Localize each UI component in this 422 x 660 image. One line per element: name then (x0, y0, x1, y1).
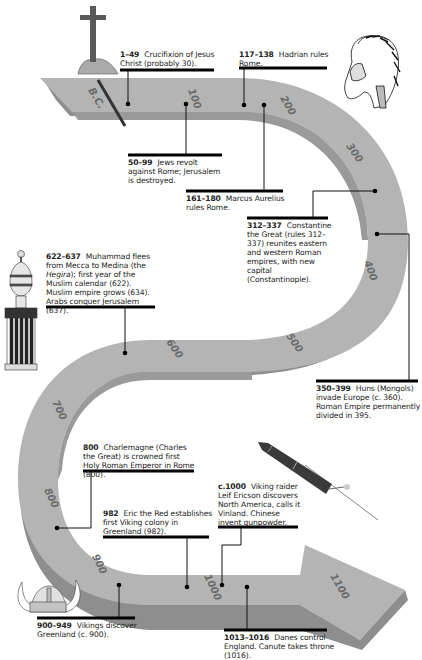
event-years: 161–180 (186, 194, 221, 203)
event-text-italic: Hegira (46, 270, 71, 279)
event-years: 350–399 (316, 384, 351, 393)
event-years: 1013–1016 (224, 633, 269, 642)
ribbon-top-upper (40, 78, 408, 372)
minaret-icon (5, 251, 37, 371)
event-years: c.1000 (218, 482, 246, 491)
event-350-399: 350–399Huns (Mongols) invade Europe (c. … (316, 384, 422, 420)
event-text: Charlemagne (Charles the Great) is crown… (83, 443, 194, 479)
event-312-337: 312–337Constantine the Great (rules 312–… (247, 221, 335, 284)
timeline-diagram: B.C. 100 200 300 400 500 600 700 800 900… (0, 0, 422, 660)
event-years: 800 (83, 443, 99, 452)
event-117-138: 117–138Hadrian rules Rome. (239, 50, 331, 68)
event-text: Eric the Red establishes first Viking co… (103, 509, 212, 536)
event-years: 312–337 (247, 221, 282, 230)
event-50-99: 50–99Jews revolt against Rome; Jerusalem… (128, 158, 224, 185)
s-curve-timeline-ribbon: B.C. 100 200 300 400 500 600 700 800 900… (0, 0, 422, 660)
event-years: 1–49 (120, 50, 139, 59)
event-900-949: 900–949Vikings discover Greenland (c. 90… (37, 621, 147, 639)
event-text: Constantine the Great (rules 312–337) re… (247, 221, 331, 284)
event-800: 800Charlemagne (Charles the Great) is cr… (83, 443, 197, 479)
event-years: 982 (103, 509, 119, 518)
event-years: 50–99 (128, 158, 152, 167)
event-c1000: c.1000Viking raider Leif Ericson discove… (218, 482, 300, 527)
event-1013-1016: 1013–1016Danes control England. Canute t… (224, 633, 354, 660)
event-years: 117–138 (239, 50, 274, 59)
cross-icon (78, 6, 118, 74)
event-years: 622–637 (46, 252, 81, 261)
event-622-637: 622–637Muhammad flees from Mecca to Medi… (46, 252, 158, 315)
event-1-49: 1–49Crucifixion of Jesus Christ (probabl… (120, 50, 220, 68)
event-years: 900–949 (37, 621, 72, 630)
event-982: 982Eric the Red establishes first Viking… (103, 509, 215, 536)
event-161-180: 161–180Marcus Aurelius rules Rome. (186, 194, 286, 212)
roman-soldier-helmet-icon (345, 36, 400, 108)
